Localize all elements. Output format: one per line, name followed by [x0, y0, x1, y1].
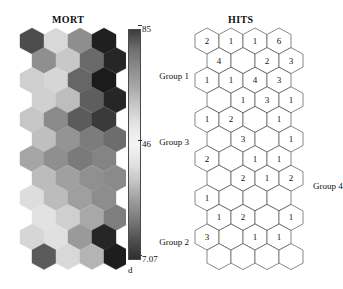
hits-cell-value: 3 — [277, 76, 282, 85]
hits-cell-value: 1 — [253, 154, 258, 163]
hits-cell-value: 4 — [217, 56, 222, 65]
colorbar-gradient — [128, 29, 141, 260]
hits-cell-value: 2 — [241, 174, 246, 183]
hits-cell-value: 2 — [205, 37, 210, 46]
group-1-label: Group 1 — [159, 71, 189, 81]
hits-cell-value: 3 — [289, 56, 294, 65]
group-2-label: Group 2 — [159, 237, 189, 247]
colorbar-tick-min — [138, 255, 142, 256]
hits-cell-value: 1 — [253, 233, 258, 242]
colorbar-tick-max — [138, 25, 142, 26]
hits-cell-value: 1 — [277, 233, 282, 242]
hits-cell-value: 1 — [229, 76, 234, 85]
group-3-label: Group 3 — [159, 137, 189, 147]
colorbar-unit-label: d — [128, 265, 133, 275]
hits-cell-value: 1 — [265, 174, 270, 183]
colorbar-max-label: 85 — [142, 25, 151, 33]
hits-cell-value: 1 — [205, 76, 210, 85]
hits-cell-value: 3 — [205, 233, 210, 242]
colorbar-min-label: 7.07 — [142, 255, 158, 263]
hits-cell-value: 2 — [241, 213, 246, 222]
mort-hexagon-layer — [18, 27, 126, 279]
colorbar-tick-mid — [138, 140, 142, 141]
hits-cell-value: 2 — [229, 115, 234, 124]
hits-cell-value: 3 — [265, 95, 270, 104]
hits-hexmap: 21164231143131121312112121121311 Group 1… — [193, 27, 315, 279]
hits-cell-value: 2 — [289, 174, 294, 183]
hits-cell-value: 1 — [241, 95, 246, 104]
hits-cell-value: 1 — [229, 37, 234, 46]
hits-cell-value: 2 — [265, 56, 270, 65]
hits-cell-value: 1 — [277, 154, 282, 163]
hits-cell-value: 3 — [241, 135, 246, 144]
hits-cell-value: 1 — [217, 213, 222, 222]
hits-cell-value: 1 — [205, 193, 210, 202]
hits-cell-value: 6 — [277, 37, 282, 46]
hits-cell-value: 2 — [205, 154, 210, 163]
hits-cell-value: 4 — [253, 76, 258, 85]
group-4-label: Group 4 — [313, 181, 343, 191]
hits-cell-value: 1 — [289, 135, 294, 144]
hits-cell-value: 1 — [289, 95, 294, 104]
hits-cell-value: 1 — [289, 213, 294, 222]
mort-hexmap — [18, 27, 126, 279]
mort-panel-title: MORT — [52, 14, 84, 25]
hits-cell-value: 1 — [253, 37, 258, 46]
colorbar-mid-label: 46 — [142, 140, 151, 148]
hits-panel-title: HITS — [228, 14, 254, 25]
hits-cell-value: 1 — [205, 115, 210, 124]
hits-cell-value: 1 — [277, 115, 282, 124]
